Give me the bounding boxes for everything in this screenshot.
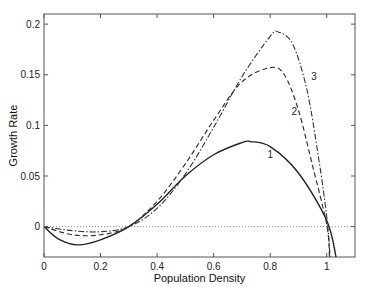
curves xyxy=(44,31,336,257)
x-tick-label: 0.4 xyxy=(150,261,164,272)
curve-label-2: 2 xyxy=(291,106,297,117)
curve-2 xyxy=(44,67,330,257)
y-axis-label: Growth Rate xyxy=(7,105,19,167)
curve-3 xyxy=(44,31,330,257)
curve-1 xyxy=(44,141,336,257)
plot-frame xyxy=(44,14,355,257)
plot-border xyxy=(44,14,355,257)
y-tick-label: 0.05 xyxy=(21,171,41,182)
curve-labels: 123 xyxy=(267,71,317,160)
x-axis-label: Population Density xyxy=(154,272,246,284)
y-tick-label: 0.2 xyxy=(26,19,40,30)
x-tick-label: 0.8 xyxy=(263,261,277,272)
x-tick-label: 0.6 xyxy=(207,261,221,272)
y-tick-label: 0.1 xyxy=(26,120,40,131)
x-tick-label: 1 xyxy=(324,261,330,272)
curve-label-1: 1 xyxy=(267,149,273,160)
y-tick-label: 0.15 xyxy=(21,69,41,80)
x-tick-label: 0 xyxy=(41,261,47,272)
axis-ticks: 00.20.40.60.8100.050.10.150.2 xyxy=(21,14,355,272)
curve-label-3: 3 xyxy=(311,71,317,82)
growth-rate-chart: 00.20.40.60.8100.050.10.150.2 123 Popula… xyxy=(0,0,366,287)
x-tick-label: 0.2 xyxy=(94,261,108,272)
y-tick-label: 0 xyxy=(34,221,40,232)
